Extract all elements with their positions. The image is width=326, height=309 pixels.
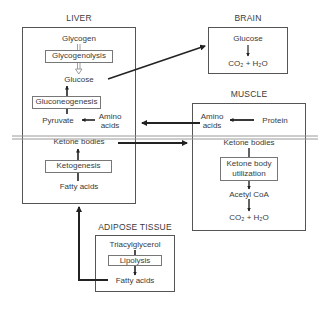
connector-arrows xyxy=(0,0,326,309)
blood-divider xyxy=(12,136,318,139)
glycogenolysis-arrow xyxy=(76,44,83,74)
fatty-acids-to-liver-arrow xyxy=(79,207,108,280)
glucose-to-brain-arrow xyxy=(108,46,205,79)
